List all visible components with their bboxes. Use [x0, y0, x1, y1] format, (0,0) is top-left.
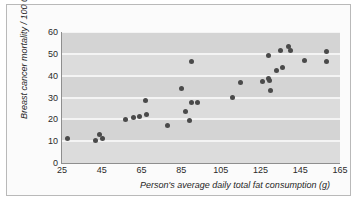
x-tick-label: 145: [293, 165, 308, 175]
y-axis-ticks: 0102030405060: [34, 32, 58, 163]
data-point: [266, 53, 271, 58]
plot-band: [62, 141, 340, 163]
data-point: [187, 118, 192, 123]
x-axis-title: Person's average daily total fat consump…: [125, 180, 345, 190]
y-tick-label: 10: [36, 136, 58, 146]
data-point: [179, 86, 184, 91]
y-tick-label: 60: [36, 27, 58, 37]
data-point: [280, 65, 285, 70]
data-point: [260, 79, 265, 84]
data-point: [131, 115, 136, 120]
plot-band: [62, 54, 340, 76]
y-tick-label: 30: [36, 93, 58, 103]
data-point: [195, 100, 200, 105]
x-axis-line: [62, 163, 340, 164]
data-point: [288, 48, 293, 53]
y-tick-label: 0: [36, 158, 58, 168]
data-point: [324, 49, 329, 54]
figure-caption: [8, 206, 351, 214]
x-tick-label: 165: [332, 165, 347, 175]
data-point: [274, 68, 279, 73]
plot-band: [62, 98, 340, 120]
data-point: [324, 59, 329, 64]
x-tick-label: 25: [57, 165, 67, 175]
y-tick-label: 20: [36, 114, 58, 124]
data-point: [183, 109, 188, 114]
data-point: [189, 100, 194, 105]
y-tick-label: 50: [36, 49, 58, 59]
x-tick-label: 85: [176, 165, 186, 175]
gridline: [62, 75, 340, 77]
data-point: [137, 114, 142, 119]
data-point: [189, 59, 194, 64]
gridline: [62, 32, 340, 33]
gridline: [62, 97, 340, 99]
data-point: [230, 95, 235, 100]
gridline: [62, 118, 340, 120]
data-point: [123, 117, 128, 122]
gridline: [62, 53, 340, 55]
plot-area: [62, 32, 340, 163]
data-point: [268, 88, 273, 93]
x-tick-label: 105: [213, 165, 228, 175]
y-axis-title: Breast cancer mortality / 100 000: [19, 0, 29, 123]
scatter-plot-figure: 0102030405060 25456585105125145165 Breas…: [0, 0, 359, 216]
data-point: [302, 58, 307, 63]
data-point: [267, 78, 272, 83]
data-point: [165, 123, 170, 128]
x-tick-label: 125: [253, 165, 268, 175]
data-point: [238, 80, 243, 85]
x-tick-label: 45: [97, 165, 107, 175]
data-point: [144, 112, 149, 117]
x-tick-label: 65: [136, 165, 146, 175]
y-tick-label: 40: [36, 71, 58, 81]
x-axis-ticks: 25456585105125145165: [62, 165, 340, 179]
y-axis-line: [61, 32, 62, 164]
